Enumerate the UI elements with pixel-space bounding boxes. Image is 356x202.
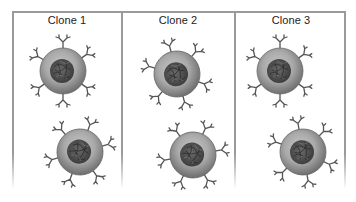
- cell-clone-2-a: [134, 31, 218, 118]
- cells-layer: [0, 0, 356, 202]
- cell-clone-3-b: [263, 111, 343, 194]
- cell-clone-1-a: [28, 35, 96, 107]
- cell-clone-1-b: [35, 106, 124, 197]
- cell-clone-2-b: [146, 108, 238, 202]
- cell-clone-3-a: [245, 35, 313, 107]
- clone-diagram: Clone 1 Clone 2 Clone 3: [0, 0, 356, 202]
